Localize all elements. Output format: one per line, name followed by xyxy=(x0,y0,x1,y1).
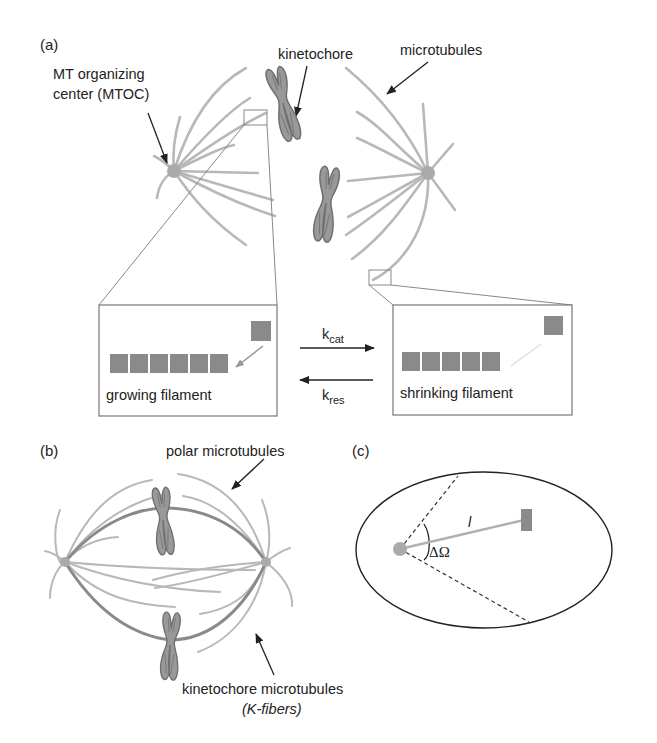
chromosome-lower xyxy=(311,166,342,243)
kinetochore-label: kinetochore xyxy=(278,46,353,62)
right-aster xyxy=(346,68,455,280)
target-kinetochore xyxy=(521,509,532,531)
right-spindle-pole xyxy=(261,557,271,567)
kcat-label: kcat xyxy=(322,326,344,345)
shrinking-filament-caption: shrinking filament xyxy=(400,385,513,401)
microtubule-length xyxy=(400,520,524,549)
growing-filament-box: growing filament xyxy=(99,305,277,416)
mtoc-label-line1: MT organizing xyxy=(53,66,145,82)
panel-c: (c) l ΔΩ xyxy=(352,442,612,628)
zoom-region-shrinking xyxy=(369,270,391,285)
polar-microtubules-label: polar microtubules xyxy=(166,443,284,459)
panel-c-label: (c) xyxy=(352,442,370,459)
growing-filament-caption: growing filament xyxy=(106,387,212,403)
kinetochore-microtubules-label: kinetochore microtubules xyxy=(182,681,343,697)
chromosome-b-upper xyxy=(152,487,175,555)
panel-b-label: (b) xyxy=(40,442,58,459)
panel-a: (a) MT organizing center (MTOC) kinetoch… xyxy=(40,36,572,416)
shrinking-filament-box: shrinking filament xyxy=(393,305,572,415)
mtoc-point xyxy=(393,542,407,556)
rate-arrows: kcat kres xyxy=(300,326,374,406)
right-mtoc xyxy=(421,166,435,180)
solid-angle-label: ΔΩ xyxy=(429,544,450,560)
microtubule-dynamics-figure: (a) MT organizing center (MTOC) kinetoch… xyxy=(0,0,657,743)
panel-a-label: (a) xyxy=(40,36,58,53)
panel-b: (b) polar microtubules kinetochore micro… xyxy=(40,442,343,717)
left-spindle-pole xyxy=(60,557,70,567)
microtubules-label: microtubules xyxy=(400,42,482,58)
left-aster xyxy=(154,68,275,245)
kres-label: kres xyxy=(322,387,345,406)
mtoc-label-line2: center (MTOC) xyxy=(53,86,149,102)
chromosome-upper xyxy=(265,65,303,142)
chromosome-b-lower xyxy=(159,612,182,680)
k-fibers-label: (K-fibers) xyxy=(242,701,302,717)
length-label: l xyxy=(468,514,472,530)
left-mtoc xyxy=(167,164,181,178)
